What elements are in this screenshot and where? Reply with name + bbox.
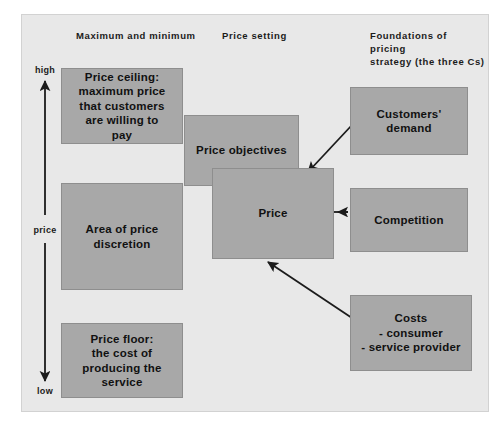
column-heading-price-setting: Price setting bbox=[222, 29, 342, 42]
column-heading-maximum-and-minimum: Maximum and minimum bbox=[76, 29, 236, 42]
axis-label-low: low bbox=[28, 386, 62, 396]
box-price-ceiling: Price ceiling: maximum price that custom… bbox=[61, 68, 183, 144]
box-competition: Competition bbox=[350, 188, 468, 252]
axis-label-price: price bbox=[28, 225, 62, 235]
column-heading-foundations-of-pricing-strategy: Foundations of pricing strategy (the thr… bbox=[370, 29, 485, 68]
box-customers-demand: Customers' demand bbox=[350, 87, 468, 155]
axis-label-high: high bbox=[28, 65, 62, 75]
box-area-of-price-discretion: Area of price discretion bbox=[61, 183, 183, 290]
box-price-floor: Price floor: the cost of producing the s… bbox=[61, 323, 183, 398]
box-costs: Costs - consumer - service provider bbox=[350, 295, 472, 371]
box-price: Price bbox=[212, 168, 334, 259]
